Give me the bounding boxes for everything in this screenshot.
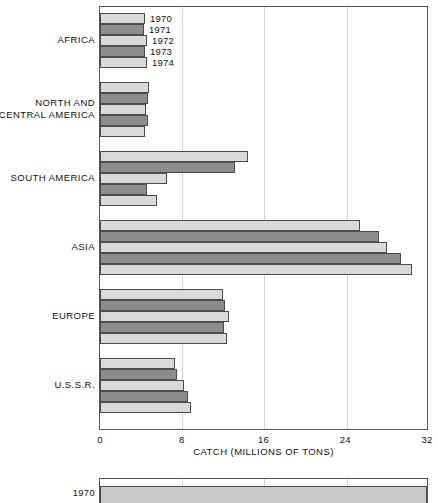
fisheries-catch-chart: 19701971197219731974 AFRICANORTH AND CEN… [0, 0, 438, 503]
series-year-label: 1973 [150, 46, 172, 57]
series-year-label: 1974 [152, 57, 174, 68]
bar [100, 369, 177, 380]
bar [100, 242, 387, 253]
series-year-label: 1970 [150, 13, 172, 24]
bar [100, 24, 144, 35]
bar [100, 46, 145, 57]
bar [100, 57, 147, 68]
second-chart-plot-area [99, 478, 428, 503]
bar [100, 300, 225, 311]
bar [100, 358, 175, 369]
category-label: EUROPE [0, 310, 95, 322]
bar [100, 82, 149, 93]
bar [100, 93, 148, 104]
x-tick-label: 24 [340, 434, 351, 445]
bar [100, 13, 145, 24]
bar [100, 104, 146, 115]
bar [100, 115, 148, 126]
bar [100, 402, 191, 413]
bar [100, 380, 184, 391]
x-axis-title: CATCH (MILLIONS OF TONS) [99, 446, 428, 457]
bar [100, 289, 223, 300]
category-label: NORTH AND CENTRAL AMERICA [0, 97, 95, 120]
bar-group [100, 151, 427, 206]
bar [100, 184, 147, 195]
second-chart-bar [100, 486, 427, 503]
bar-group [100, 82, 427, 137]
x-tick-label: 8 [179, 434, 185, 445]
bar-group [100, 289, 427, 344]
bar [100, 333, 227, 344]
bar-group: 19701971197219731974 [100, 13, 427, 68]
bar [100, 231, 379, 242]
bar [100, 311, 229, 322]
plot-area: 19701971197219731974 [99, 6, 428, 430]
bar [100, 391, 188, 402]
category-label: SOUTH AMERICA [0, 172, 95, 184]
bar [100, 220, 360, 231]
second-chart-category-label: 1970 [0, 487, 95, 498]
bar [100, 151, 248, 162]
bar [100, 322, 224, 333]
x-tick-label: 32 [421, 434, 432, 445]
bar [100, 162, 235, 173]
category-label: ASIA [0, 241, 95, 253]
category-label: AFRICA [0, 34, 95, 46]
bar-group [100, 358, 427, 413]
bar [100, 264, 412, 275]
series-year-label: 1972 [152, 35, 174, 46]
bar [100, 35, 147, 46]
bar [100, 126, 145, 137]
bar [100, 253, 401, 264]
category-label: U.S.S.R. [0, 379, 95, 391]
x-tick-label: 16 [258, 434, 269, 445]
bar-group [100, 220, 427, 275]
series-year-label: 1971 [149, 24, 171, 35]
x-tick-label: 0 [97, 434, 103, 445]
bar [100, 173, 167, 184]
bar [100, 195, 157, 206]
